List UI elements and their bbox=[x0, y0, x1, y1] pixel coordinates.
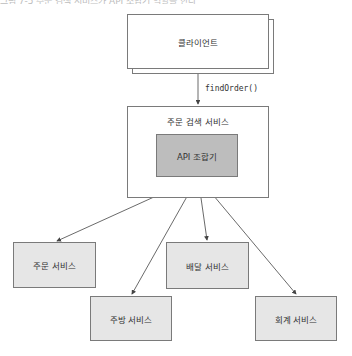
api-composer-box: API 조합기 bbox=[156, 134, 238, 177]
kitchen-service-box: 주방 서비스 bbox=[90, 296, 172, 341]
order-service-box: 주문 서비스 bbox=[13, 242, 96, 288]
accounting-service-label: 회계 서비스 bbox=[256, 313, 336, 325]
client-label: 클라이언트 bbox=[128, 36, 268, 48]
api-composer-label: API 조합기 bbox=[157, 150, 237, 162]
order-service-label: 주문 서비스 bbox=[14, 259, 95, 271]
delivery-service-box: 배달 서비스 bbox=[166, 242, 249, 289]
delivery-service-label: 배달 서비스 bbox=[167, 260, 248, 272]
client-box: 클라이언트 bbox=[127, 14, 269, 69]
find-order-call-label: findOrder() bbox=[205, 84, 258, 93]
accounting-service-box: 회계 서비스 bbox=[255, 296, 337, 341]
order-query-service-label: 주문 검색 서비스 bbox=[128, 115, 268, 127]
kitchen-service-label: 주방 서비스 bbox=[91, 313, 171, 325]
